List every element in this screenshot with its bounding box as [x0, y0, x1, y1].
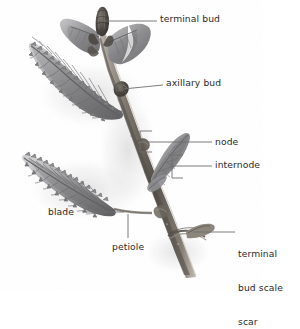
label-terminal-bud-scale-scar: terminal bud scale scar: [238, 225, 283, 329]
label-tbss-line-1: terminal: [238, 248, 283, 259]
label-tbss-line-3: scar: [238, 316, 283, 327]
label-axillary-bud: axillary bud: [166, 77, 221, 88]
label-terminal-bud: terminal bud: [160, 13, 220, 24]
label-petiole: petiole: [112, 241, 144, 252]
label-internode: internode: [215, 159, 260, 170]
label-blade: blade: [48, 206, 74, 217]
label-node: node: [215, 136, 238, 147]
label-tbss-line-2: bud scale: [238, 282, 283, 293]
